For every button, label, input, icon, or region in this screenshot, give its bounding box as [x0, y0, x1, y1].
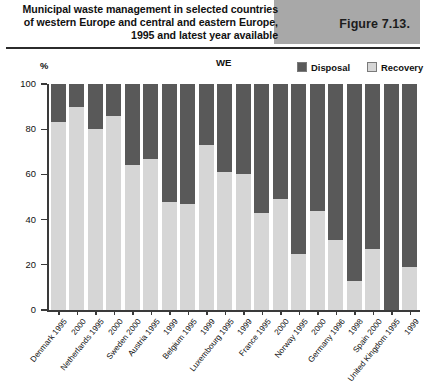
y-axis-line: [47, 84, 49, 311]
bar-segment-disposal: [125, 84, 140, 165]
bar-united-kingdom-1995-18: [384, 84, 399, 310]
bar-segment-disposal: [217, 84, 232, 172]
y-tick-20: [41, 264, 47, 265]
x-tick-14: [317, 310, 318, 315]
bar-segment-disposal: [180, 84, 195, 204]
bar-segment-recovery: [310, 211, 325, 310]
bar-segment-recovery: [69, 107, 84, 310]
bar-1998-16: [347, 84, 362, 310]
bar-norway-1995-13: [291, 84, 306, 310]
x-tick-2: [95, 310, 96, 315]
bar-1999-10: [236, 84, 251, 310]
bar-segment-disposal: [199, 84, 214, 145]
bar-luxembourg-1995-9: [217, 84, 232, 310]
x-tick-15: [336, 310, 337, 315]
bar-segment-disposal: [236, 84, 251, 174]
bar-segment-disposal: [384, 84, 399, 310]
x-tick-6: [169, 310, 170, 315]
x-tick-9: [225, 310, 226, 315]
y-tick-60: [41, 174, 47, 175]
bar-austria-1995-5: [143, 84, 158, 310]
y-tick-label-20: 20: [2, 259, 36, 270]
y-tick-label-80: 80: [2, 123, 36, 134]
y-tick-label-100: 100: [2, 78, 36, 89]
x-tick-16: [354, 310, 355, 315]
bar-segment-recovery: [254, 213, 269, 310]
bar-segment-recovery: [365, 249, 380, 310]
x-tick-17: [373, 310, 374, 315]
bar-segment-recovery: [402, 267, 417, 310]
bar-belgium-1995-7: [180, 84, 195, 310]
bar-segment-disposal: [273, 84, 288, 199]
y-tick-label-0: 0: [2, 304, 36, 315]
bar-2000-1: [69, 84, 84, 310]
x-tick-5: [151, 310, 152, 315]
x-axis-line: [47, 310, 420, 312]
bar-segment-disposal: [347, 84, 362, 281]
bar-segment-recovery: [199, 145, 214, 310]
bar-segment-disposal: [162, 84, 177, 202]
bar-segment-recovery: [143, 159, 158, 310]
bar-segment-recovery: [106, 116, 121, 310]
x-tick-18: [391, 310, 392, 315]
x-axis-label-19: 1999: [402, 317, 420, 337]
bar-germany-1996-15: [328, 84, 343, 310]
x-tick-8: [206, 310, 207, 315]
bar-segment-recovery: [328, 240, 343, 310]
bar-2000-3: [106, 84, 121, 310]
y-tick-80: [41, 129, 47, 130]
bar-1999-8: [199, 84, 214, 310]
bar-france-1995-11: [254, 84, 269, 310]
bar-segment-recovery: [51, 122, 66, 310]
bar-spain-2000-17: [365, 84, 380, 310]
bar-sweden-2000-4: [125, 84, 140, 310]
bar-segment-disposal: [69, 84, 84, 107]
bar-segment-disposal: [328, 84, 343, 240]
bar-segment-recovery: [273, 199, 288, 310]
bar-segment-disposal: [310, 84, 325, 211]
x-tick-10: [243, 310, 244, 315]
x-tick-13: [299, 310, 300, 315]
x-tick-11: [262, 310, 263, 315]
x-tick-1: [77, 310, 78, 315]
y-tick-0: [41, 309, 47, 310]
bar-segment-recovery: [347, 281, 362, 310]
x-tick-12: [280, 310, 281, 315]
bar-1999-19: [402, 84, 417, 310]
bar-segment-recovery: [162, 202, 177, 310]
bar-segment-recovery: [88, 129, 103, 310]
chart-plot-area: % 020406080100 Denmark 19952000Netherlan…: [0, 0, 426, 388]
bar-segment-disposal: [254, 84, 269, 213]
bar-segment-recovery: [180, 204, 195, 310]
bar-netherlands-1995-2: [88, 84, 103, 310]
bar-segment-recovery: [125, 165, 140, 310]
y-tick-label-40: 40: [2, 214, 36, 225]
bar-segment-disposal: [51, 84, 66, 122]
bar-segment-recovery: [291, 254, 306, 311]
bar-2000-12: [273, 84, 288, 310]
bar-segment-disposal: [106, 84, 121, 116]
bar-segment-recovery: [236, 174, 251, 310]
x-tick-19: [410, 310, 411, 315]
y-tick-100: [41, 83, 47, 84]
x-tick-0: [58, 310, 59, 315]
bar-segment-disposal: [402, 84, 417, 267]
x-tick-4: [132, 310, 133, 315]
bar-segment-disposal: [143, 84, 158, 159]
bar-denmark-1995-0: [51, 84, 66, 310]
y-axis-unit-label: %: [40, 60, 48, 71]
bar-2000-14: [310, 84, 325, 310]
bar-segment-disposal: [291, 84, 306, 254]
bar-segment-recovery: [217, 172, 232, 310]
bar-segment-disposal: [88, 84, 103, 129]
x-tick-3: [114, 310, 115, 315]
bar-segment-disposal: [365, 84, 380, 249]
y-tick-label-60: 60: [2, 168, 36, 179]
bar-1999-6: [162, 84, 177, 310]
y-tick-40: [41, 219, 47, 220]
x-tick-7: [188, 310, 189, 315]
x-axis-label-0: Denmark 1995: [29, 317, 69, 364]
